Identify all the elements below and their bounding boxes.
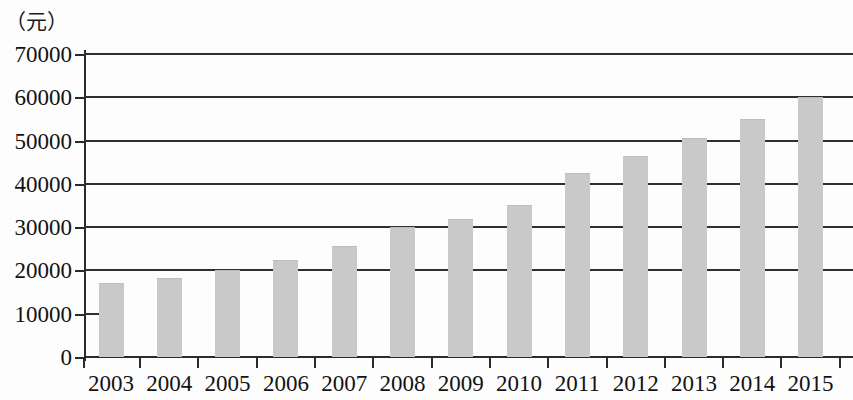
y-tick-mark [75,141,85,143]
gridline-40000 [84,183,853,185]
x-tick-label-2011: 2011 [555,372,600,395]
bar-2007 [332,246,357,357]
y-tick-label: 60000 [15,86,73,109]
y-tick-mark [75,184,85,186]
bar-2003 [99,283,124,357]
y-tick-label: 0 [61,346,73,369]
x-tick-label-2003: 2003 [88,372,134,395]
y-tick-label: 40000 [15,172,73,195]
x-tick-mark [489,357,491,368]
x-tick-label-2008: 2008 [380,372,426,395]
bar-2013 [682,138,707,357]
bar-2008 [390,227,415,357]
bar-2006 [273,260,298,357]
gridline-50000 [84,140,853,142]
bar-2004 [157,278,182,357]
x-tick-mark [547,357,549,368]
bar-2009 [448,219,473,358]
y-tick-mark [75,227,85,229]
x-tick-mark [372,357,374,368]
chart-screenshot: （元） 010000200003000040000500006000070000… [0,0,853,400]
y-tick-label: 70000 [15,43,73,66]
y-tick-mark [75,270,85,272]
gridline-60000 [84,96,853,98]
x-tick-label-2010: 2010 [496,372,542,395]
plot-area: 010000200003000040000500006000070000 200… [84,54,853,357]
bar-2011 [565,173,590,357]
x-tick-mark-origin [83,357,85,368]
y-tick-label: 50000 [15,129,73,152]
x-tick-mark [139,357,141,368]
bar-2010 [507,205,532,357]
bar-2012 [623,156,648,357]
bar-2005 [215,270,240,357]
y-tick-label: 20000 [15,259,73,282]
y-tick-mark [75,54,85,56]
x-tick-mark [256,357,258,368]
x-tick-mark [197,357,199,368]
y-tick-label: 30000 [15,216,73,239]
x-tick-label-2006: 2006 [263,372,309,395]
x-tick-mark [722,357,724,368]
x-tick-label-2005: 2005 [205,372,251,395]
x-tick-mark [839,357,841,368]
x-tick-mark [606,357,608,368]
bar-2015 [798,97,823,357]
x-tick-label-2013: 2013 [671,372,717,395]
x-tick-label-2004: 2004 [146,372,192,395]
x-tick-mark [780,357,782,368]
y-tick-mark [75,314,85,316]
x-tick-mark [314,357,316,368]
x-tick-label-2012: 2012 [613,372,659,395]
x-tick-label-2009: 2009 [438,372,484,395]
x-tick-mark [664,357,666,368]
x-tick-label-2015: 2015 [788,372,834,395]
y-tick-label: 10000 [15,302,73,325]
x-tick-mark [431,357,433,368]
x-tick-label-2014: 2014 [729,372,775,395]
gridline-70000 [84,53,853,55]
bar-2014 [740,119,765,357]
x-tick-label-2007: 2007 [321,372,367,395]
y-axis-unit-caption: （元） [5,5,68,35]
y-tick-mark [75,97,85,99]
